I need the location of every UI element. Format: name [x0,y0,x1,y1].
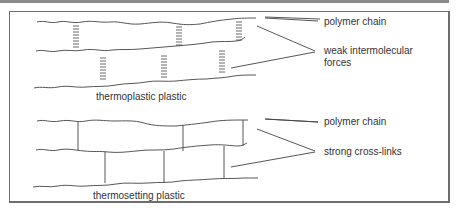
label-strong-cross-links: strong cross-links [324,146,402,157]
thermosetting-chains [33,119,318,187]
thermoplastic-leaders [231,18,318,68]
polymer-structure-diagram [0,0,457,212]
label-weak-intermolecular-forces-line2: forces [324,57,351,68]
label-polymer-chain-thermoplastic: polymer chain [324,16,386,27]
label-weak-intermolecular-forces-line1: weak intermolecular [324,45,413,56]
caption-thermoplastic: thermoplastic plastic [96,91,187,102]
thermosetting-leaders [231,119,318,167]
caption-thermosetting: thermosetting plastic [93,190,185,201]
label-polymer-chain-thermosetting: polymer chain [324,116,386,127]
weak-intermolecular-forces [73,22,242,79]
thermoplastic-chains [34,17,320,88]
